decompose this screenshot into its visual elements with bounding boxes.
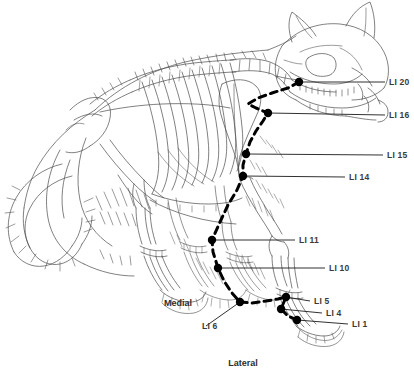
leader-line-li14: [243, 176, 345, 177]
acupoint-li15[interactable]: [242, 150, 250, 158]
acupoint-label-li10: LI 10: [329, 264, 349, 273]
orientation-label-medial: Medial: [164, 299, 192, 308]
orientation-label-lateral: Lateral: [228, 359, 258, 368]
acupuncture-figure: LI 20LI 16LI 15LI 14LI 11LI 10LI 6LI 5LI…: [0, 0, 414, 378]
leader-line-li16: [268, 113, 385, 115]
acupoint-label-li1: LI 1: [352, 320, 367, 329]
acupoint-li11[interactable]: [208, 236, 216, 244]
acupoint-label-li14: LI 14: [349, 173, 369, 182]
acupoint-li10[interactable]: [214, 264, 222, 272]
acupoint-li20[interactable]: [295, 78, 303, 86]
acupoint-label-li5: LI 5: [314, 297, 329, 306]
acupoint-li5[interactable]: [282, 293, 290, 301]
leader-lines: [206, 82, 385, 326]
acupoint-label-li11: LI 11: [299, 236, 319, 245]
acupoint-markers: [208, 78, 303, 324]
leader-line-li1: [297, 320, 348, 324]
acupoint-label-li16: LI 16: [389, 111, 409, 120]
acupoint-li16[interactable]: [264, 109, 272, 117]
acupoint-label-li6: LI 6: [202, 322, 217, 331]
acupoint-label-li20: LI 20: [389, 78, 409, 87]
acupoint-li1[interactable]: [293, 316, 301, 324]
acupoint-li14[interactable]: [239, 172, 247, 180]
acupoint-li6[interactable]: [236, 298, 244, 306]
leader-line-li15: [246, 154, 383, 155]
acupoint-label-li4: LI 4: [326, 309, 341, 318]
acupoint-li4[interactable]: [277, 305, 285, 313]
acupoint-label-li15: LI 15: [387, 151, 407, 160]
